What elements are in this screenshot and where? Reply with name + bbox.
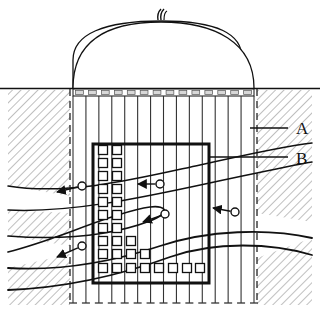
anchor-square	[99, 198, 108, 207]
anchor-square	[113, 185, 122, 194]
anchor-square	[141, 250, 150, 259]
anchor-square	[127, 264, 136, 273]
anchor-square	[99, 250, 108, 259]
anchor-square	[183, 264, 192, 273]
hatch-region-upper-left	[8, 90, 70, 196]
slab-segment	[89, 91, 97, 95]
anchor-square	[113, 198, 122, 207]
slab-segment	[114, 91, 122, 95]
anchor-square	[113, 211, 122, 220]
anchor-square	[113, 264, 122, 273]
slab-segment	[218, 91, 226, 95]
anchor-square	[99, 185, 108, 194]
flow-arrow-2-tail-node	[156, 180, 164, 188]
anchor-square	[155, 264, 164, 273]
anchor-square	[196, 264, 205, 273]
slab-segment	[179, 91, 187, 95]
slab-segment	[127, 91, 135, 95]
surface-slab-band	[73, 89, 254, 96]
flow-arrow-5-tail-node	[78, 242, 86, 250]
anchor-square	[113, 250, 122, 259]
anchor-square	[113, 146, 122, 155]
slab-segment	[205, 91, 213, 95]
slab-segment	[76, 91, 84, 95]
anchor-square	[99, 211, 108, 220]
slab-segment	[140, 91, 148, 95]
slab-segment	[101, 91, 109, 95]
anchor-square	[99, 172, 108, 181]
flow-arrow-3-tail-node	[161, 210, 169, 218]
slab-segment	[153, 91, 161, 95]
flow-arrow-1-tail-node	[78, 182, 86, 190]
slab-segment	[244, 91, 252, 95]
label-b: B	[296, 149, 307, 168]
flow-arrow-4-tail-node	[231, 208, 239, 216]
anchor-square	[127, 237, 136, 246]
anchor-square	[113, 172, 122, 181]
slab-segment	[166, 91, 174, 95]
anchor-square	[113, 237, 122, 246]
anchor-square	[99, 237, 108, 246]
label-a: A	[296, 119, 309, 138]
anchor-square	[127, 250, 136, 259]
diagram-stage: A B	[0, 0, 320, 320]
anchor-square	[113, 159, 122, 168]
anchor-square	[169, 264, 178, 273]
anchor-square	[113, 224, 122, 233]
anchor-square	[99, 159, 108, 168]
slab-segment	[192, 91, 200, 95]
anchor-square	[99, 224, 108, 233]
anchor-square	[99, 264, 108, 273]
anchor-square	[141, 264, 150, 273]
anchor-square	[99, 146, 108, 155]
slab-segment	[231, 91, 239, 95]
cross-section-figure: A B	[0, 0, 320, 320]
